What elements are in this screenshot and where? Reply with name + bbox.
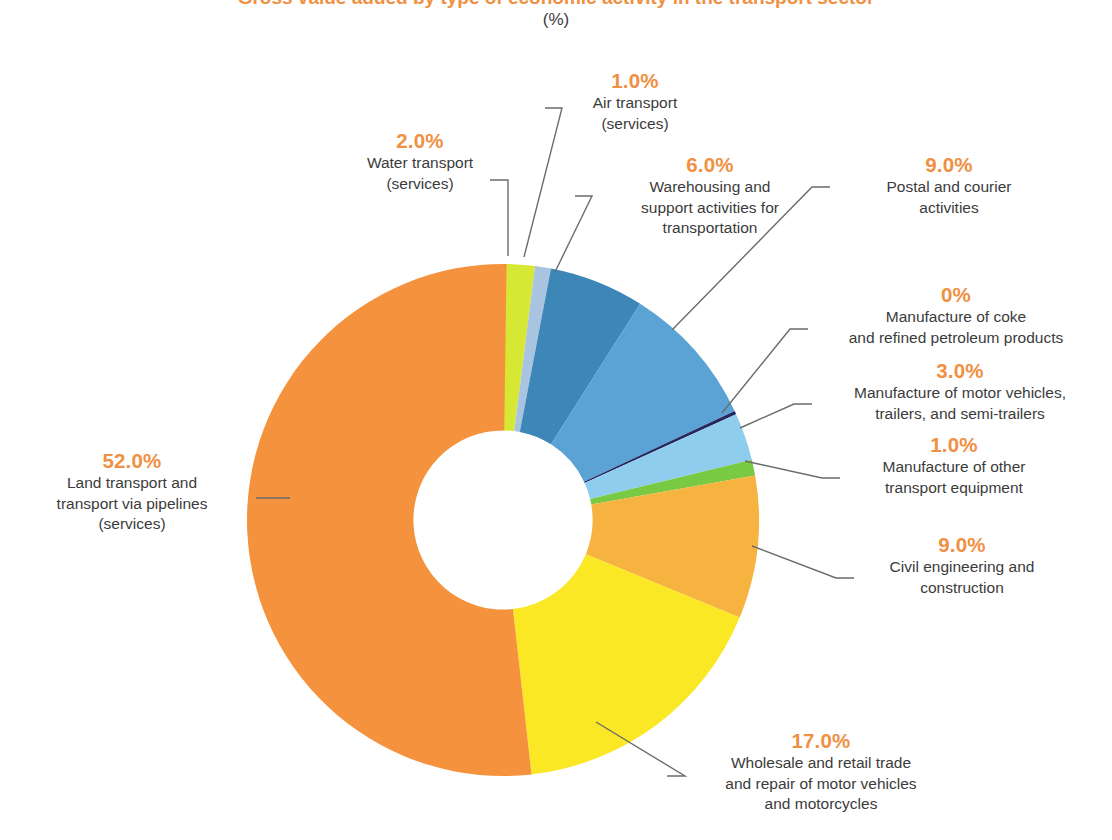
callout-civil-engineering-label: Civil engineering and construction xyxy=(850,557,1074,598)
leader-line-coke xyxy=(722,329,808,413)
callout-air-transport: 1.0% Air transport (services) xyxy=(520,68,750,134)
leader-line-motor-vehicles xyxy=(740,404,812,428)
callout-motor-vehicles-percent: 3.0% xyxy=(808,358,1112,383)
callout-postal: 9.0% Postal and courier activities xyxy=(838,152,1060,218)
callout-water-transport-percent: 2.0% xyxy=(300,128,540,153)
leader-line-civil-engineering xyxy=(752,546,854,578)
callout-air-transport-label: Air transport (services) xyxy=(520,93,750,134)
callout-wholesale-label: Wholesale and retail trade and repair of… xyxy=(676,753,966,815)
callout-land-transport: 52.0% Land transport and transport via p… xyxy=(8,448,256,535)
leader-line-warehousing xyxy=(555,196,592,272)
callout-wholesale: 17.0% Wholesale and retail trade and rep… xyxy=(676,728,966,815)
callout-air-transport-percent: 1.0% xyxy=(520,68,750,93)
callout-civil-engineering: 9.0% Civil engineering and construction xyxy=(850,532,1074,598)
callout-motor-vehicles: 3.0% Manufacture of motor vehicles, trai… xyxy=(808,358,1112,424)
callout-warehousing-label: Warehousing and support activities for t… xyxy=(590,177,830,239)
callout-civil-engineering-percent: 9.0% xyxy=(850,532,1074,557)
callout-motor-vehicles-label: Manufacture of motor vehicles, trailers,… xyxy=(808,383,1112,424)
callout-other-transport: 1.0% Manufacture of other transport equi… xyxy=(838,432,1070,498)
callout-postal-label: Postal and courier activities xyxy=(838,177,1060,218)
callout-land-transport-percent: 52.0% xyxy=(8,448,256,473)
callout-other-transport-percent: 1.0% xyxy=(838,432,1070,457)
callout-coke-percent: 0% xyxy=(800,282,1112,307)
callout-coke: 0% Manufacture of coke and refined petro… xyxy=(800,282,1112,348)
callout-land-transport-label: Land transport and transport via pipelin… xyxy=(8,473,256,535)
callout-warehousing: 6.0% Warehousing and support activities … xyxy=(590,152,830,239)
callout-water-transport: 2.0% Water transport (services) xyxy=(300,128,540,194)
leader-line-other-transport xyxy=(745,461,840,478)
callout-wholesale-percent: 17.0% xyxy=(676,728,966,753)
callout-postal-percent: 9.0% xyxy=(838,152,1060,177)
chart-root: Gross value added by type of economic ac… xyxy=(0,0,1112,840)
donut-slice-group xyxy=(247,264,759,776)
donut-slice[interactable] xyxy=(247,264,532,776)
callout-coke-label: Manufacture of coke and refined petroleu… xyxy=(800,307,1112,348)
callout-warehousing-percent: 6.0% xyxy=(590,152,830,177)
callout-other-transport-label: Manufacture of other transport equipment xyxy=(838,457,1070,498)
callout-water-transport-label: Water transport (services) xyxy=(300,153,540,194)
